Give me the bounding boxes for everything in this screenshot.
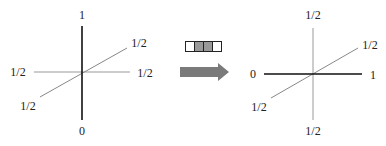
left-vertical-bottom-label: 0 [79,124,85,138]
left-vertical-top-label: 1 [79,8,85,22]
right-horizontal-right-label: 1 [370,68,376,82]
right-diagram: 0 1 1/2 1/2 1/2 1/2 [250,8,378,138]
left-diagram: 1 0 1/2 1/2 1/2 1/2 [10,8,152,138]
right-horizontal-left-label: 0 [250,67,256,81]
right-vertical-top-label: 1/2 [305,8,320,22]
cell-3 [204,42,213,52]
right-diagonal-axis [271,48,358,98]
cell-4 [213,42,222,52]
left-diagonal-lower-label: 1/2 [20,99,35,113]
transition [180,42,229,82]
right-diagonal-upper-label: 1/2 [362,38,377,52]
cell-1 [186,42,195,52]
left-diagonal-upper-label: 1/2 [131,36,146,50]
right-vertical-bottom-label: 1/2 [305,124,320,138]
left-horizontal-left-label: 1/2 [10,65,25,79]
right-arrow-icon [180,63,229,81]
cell-2 [195,42,204,52]
right-diagonal-lower-label: 1/2 [251,100,266,114]
state-cells [186,42,222,52]
diagram-canvas: 1 0 1/2 1/2 1/2 1/2 0 1 1/2 1/2 1/2 1/2 [0,0,386,146]
left-horizontal-right-label: 1/2 [137,66,152,80]
